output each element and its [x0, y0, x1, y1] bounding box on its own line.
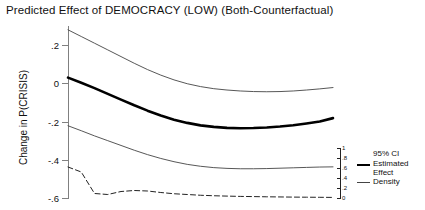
- y-tick-label: -.6: [48, 193, 59, 204]
- legend-label: 95% CI: [373, 150, 399, 159]
- y-tick-mark: [62, 160, 68, 161]
- y-tick-mark: [62, 122, 68, 123]
- legend-label: Density: [373, 178, 400, 187]
- y-tick-label: -.2: [48, 116, 59, 127]
- secondary-y-tick-label: .8: [342, 155, 347, 161]
- chart-legend: 95% CIEstimated EffectDensity: [357, 150, 423, 188]
- legend-swatch-icon: [357, 164, 370, 166]
- y-tick-mark: [62, 198, 68, 199]
- y-tick-mark: [62, 45, 68, 46]
- y-tick-label: .2: [51, 40, 59, 51]
- secondary-y-tick-mark: [337, 188, 340, 189]
- chart-title: Predicted Effect of DEMOCRACY (LOW) (Bot…: [6, 4, 333, 16]
- chart-screenshot: Predicted Effect of DEMOCRACY (LOW) (Bot…: [0, 0, 425, 210]
- secondary-y-tick-label: .6: [342, 165, 347, 171]
- secondary-y-tick-label: 1: [342, 145, 345, 151]
- secondary-y-tick-label: .2: [342, 185, 347, 191]
- legend-label: Estimated Effect: [373, 160, 409, 177]
- legend-item: Estimated Effect: [357, 160, 423, 177]
- secondary-y-tick-mark: [337, 168, 340, 169]
- legend-item: Density: [357, 178, 423, 187]
- secondary-y-tick-label: .4: [342, 175, 347, 181]
- secondary-y-axis-line: [340, 148, 341, 199]
- y-tick-mark: [62, 83, 68, 84]
- legend-item: 95% CI: [357, 150, 423, 159]
- secondary-y-tick-mark: [337, 178, 340, 179]
- secondary-y-tick-mark: [337, 148, 340, 149]
- y-tick-label: -.4: [48, 154, 59, 165]
- secondary-y-tick-label: 0: [342, 195, 345, 201]
- secondary-y-tick-mark: [337, 198, 340, 199]
- plot-area: [68, 26, 333, 198]
- legend-swatch-icon: [357, 182, 370, 183]
- secondary-y-tick-mark: [337, 158, 340, 159]
- y-axis-label: Change in P(CRISIS): [18, 53, 29, 183]
- y-tick-label: 0: [54, 78, 59, 89]
